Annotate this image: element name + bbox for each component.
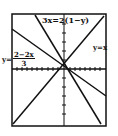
fraction: 2−2x 3 (13, 51, 35, 67)
fraction-denominator: 3 (21, 59, 26, 67)
fraction-numerator: 2−2x (13, 51, 35, 59)
label-y-equals-x: y=x (93, 44, 107, 51)
label-y-equals-fraction: y= 2−2x 3 (2, 51, 35, 67)
label-fraction-prefix: y= (2, 56, 12, 63)
label-3x-equals-2-1-minus-y: 3x=2(1−y) (42, 16, 89, 24)
